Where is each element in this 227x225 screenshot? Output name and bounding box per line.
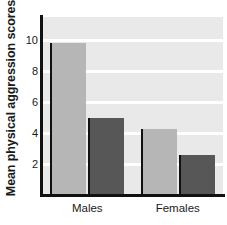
y-tick-label: 10 xyxy=(26,35,38,46)
y-axis-title-text: Mean physical aggression scores xyxy=(4,0,18,196)
bar xyxy=(141,129,177,195)
y-tick-label: 8 xyxy=(32,66,38,77)
y-axis-tick-labels: 246810 xyxy=(22,0,40,195)
x-tick-label: Males xyxy=(72,202,103,214)
gridline xyxy=(42,39,223,42)
x-axis-spine xyxy=(40,194,225,197)
bar-chart-figure: Mean physical aggression scores 246810 M… xyxy=(0,0,227,225)
bar xyxy=(50,43,86,195)
y-tick-label: 4 xyxy=(32,128,38,139)
y-axis-title: Mean physical aggression scores xyxy=(0,0,22,195)
y-tick-label: 6 xyxy=(32,97,38,108)
y-axis-spine xyxy=(40,15,43,197)
x-axis-tick-labels: MalesFemales xyxy=(42,199,223,221)
bar xyxy=(179,155,215,195)
y-tick-label: 2 xyxy=(32,159,38,170)
plot-area xyxy=(42,17,223,195)
bar xyxy=(88,118,124,195)
x-tick-label: Females xyxy=(156,202,200,214)
